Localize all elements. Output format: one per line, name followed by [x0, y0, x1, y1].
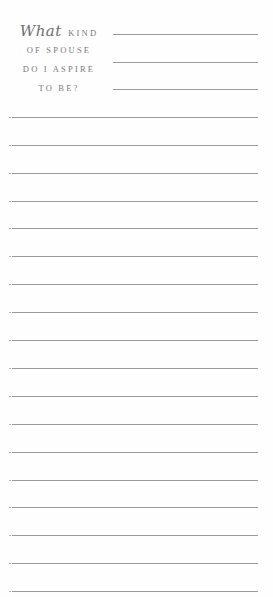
prompt-line-3: DO I ASPIRE: [10, 60, 108, 79]
prompt-line-4: TO BE?: [10, 79, 108, 98]
writing-line[interactable]: [12, 591, 258, 592]
writing-line[interactable]: [12, 507, 258, 508]
writing-line[interactable]: [12, 312, 258, 313]
journal-prompt: What KIND OF SPOUSE DO I ASPIRE TO BE?: [10, 22, 108, 98]
writing-line[interactable]: [12, 117, 258, 118]
writing-line[interactable]: [12, 284, 258, 285]
writing-line[interactable]: [12, 535, 258, 536]
line-tick-mark: [9, 591, 11, 592]
writing-line[interactable]: [12, 145, 258, 146]
writing-line[interactable]: [12, 480, 258, 481]
line-tick-mark: [9, 396, 11, 397]
writing-line[interactable]: [12, 424, 258, 425]
writing-line[interactable]: [12, 396, 258, 397]
line-tick-mark: [9, 312, 11, 313]
writing-line[interactable]: [12, 256, 258, 257]
writing-line[interactable]: [12, 563, 258, 564]
line-tick-mark: [9, 507, 11, 508]
line-tick-mark: [9, 535, 11, 536]
prompt-script-word: What: [20, 22, 62, 40]
writing-line[interactable]: [12, 368, 258, 369]
writing-line[interactable]: [12, 201, 258, 202]
line-tick-mark: [9, 228, 11, 229]
line-tick-mark: [9, 368, 11, 369]
line-tick-mark: [9, 563, 11, 564]
line-tick-mark: [9, 424, 11, 425]
line-tick-mark: [9, 452, 11, 453]
line-tick-mark: [9, 201, 11, 202]
line-tick-mark: [9, 284, 11, 285]
writing-line[interactable]: [12, 452, 258, 453]
line-tick-mark: [9, 145, 11, 146]
writing-line[interactable]: [12, 340, 258, 341]
prompt-line-1: What KIND: [10, 22, 108, 41]
header-writing-line[interactable]: [113, 34, 258, 35]
header-writing-line[interactable]: [113, 62, 258, 63]
line-tick-mark: [9, 340, 11, 341]
line-tick-mark: [9, 173, 11, 174]
line-tick-mark: [9, 117, 11, 118]
line-tick-mark: [9, 480, 11, 481]
prompt-line-2: OF SPOUSE: [10, 41, 108, 60]
prompt-line-1-rest: KIND: [68, 28, 98, 38]
writing-line[interactable]: [12, 173, 258, 174]
line-tick-mark: [9, 256, 11, 257]
journal-page: What KIND OF SPOUSE DO I ASPIRE TO BE?: [0, 0, 273, 597]
header-writing-line[interactable]: [113, 89, 258, 90]
writing-line[interactable]: [12, 228, 258, 229]
